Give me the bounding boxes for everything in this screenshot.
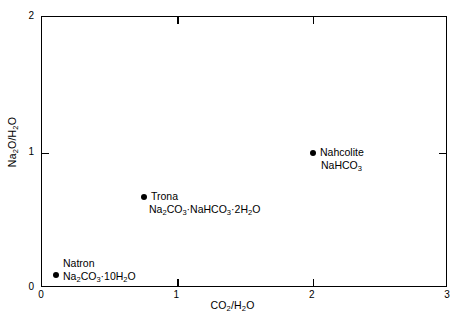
nahcolite-name: Nahcolite [320,146,364,159]
data-point-natron[interactable] [53,272,59,278]
y-axis-title: Na2O/H2O [6,94,18,190]
scatter-chart-figure: Natron Na2CO3·10H2O Trona Na2CO3·NaHCO3·… [0,0,465,322]
y-tick-right-1 [439,153,446,154]
nahcolite-formula: NaHCO3 [321,159,364,172]
point-label-natron: Natron Na2CO3·10H2O [63,257,136,283]
x-tick-top-1 [177,17,178,24]
data-point-trona[interactable] [141,194,147,200]
point-label-nahcolite: Nahcolite NaHCO3 [320,146,364,172]
x-tick-top-2 [313,17,314,24]
trona-formula: Na2CO3·NaHCO3·2H2O [149,203,260,216]
plot-area: Natron Na2CO3·10H2O Trona Na2CO3·NaHCO3·… [41,16,447,287]
x-tick-1 [177,279,178,286]
natron-name: Natron [63,257,136,270]
trona-name: Trona [151,190,260,203]
data-point-nahcolite[interactable] [310,150,316,156]
x-tick-2 [313,279,314,286]
y-tick-label-0: 0 [8,281,34,292]
natron-formula: Na2CO3·10H2O [63,270,136,283]
point-label-trona: Trona Na2CO3·NaHCO3·2H2O [151,190,260,216]
x-axis-title: CO2/H2O [0,299,465,311]
y-tick-label-2: 2 [8,10,34,21]
y-tick-1 [42,153,49,154]
